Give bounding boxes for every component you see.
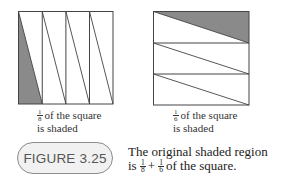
figure-description: The original shaded region is 18+ 16of t… [128,145,268,174]
caption-line2: is shaded [37,122,78,134]
fraction: 16 [173,109,179,122]
right-square-diagram [154,12,250,106]
caption-line1: of the square [45,109,102,121]
fraction: 16 [158,160,164,173]
fraction-denominator: 6 [173,116,179,122]
description-line1: The original shaded region [128,144,268,159]
left-caption: 18of the square is shaded [37,110,101,134]
plus-sign: + [148,158,155,173]
caption-line2: is shaded [173,122,214,134]
fraction-denominator: 6 [158,167,164,173]
fraction-denominator: 8 [140,167,146,173]
figure-label-badge: FIGURE 3.25 [17,142,113,174]
fraction: 18 [37,109,43,122]
description-prefix: is [128,158,137,173]
left-square-diagram [19,12,114,105]
fraction-denominator: 8 [37,116,43,122]
description-suffix: of the square. [166,158,236,173]
right-caption: 16of the square is shaded [173,110,237,134]
caption-line1: of the square [181,109,238,121]
fraction: 18 [140,160,146,173]
figure-label: FIGURE 3.25 [23,151,106,166]
